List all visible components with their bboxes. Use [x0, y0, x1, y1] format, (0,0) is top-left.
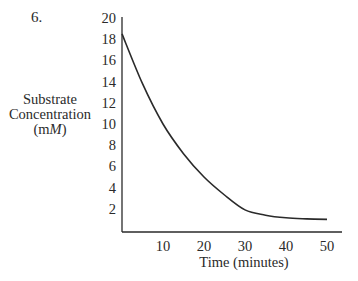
- x-tick-label: 40: [279, 238, 294, 254]
- x-tick-labels: 1020304050: [156, 238, 335, 254]
- y-tick-label: 14: [102, 74, 117, 90]
- y-tick-label: 18: [102, 31, 117, 47]
- x-tick-label: 10: [156, 238, 171, 254]
- y-tick-label: 8: [109, 137, 116, 153]
- y-tick-label: 10: [102, 116, 117, 132]
- line-chart: 2468101214161820 1020304050 Time (minute…: [0, 0, 358, 281]
- y-tick-label: 12: [102, 95, 117, 111]
- x-tick-label: 50: [320, 238, 335, 254]
- y-tick-labels: 2468101214161820: [102, 10, 117, 217]
- y-tick-label: 4: [109, 180, 117, 196]
- y-tick-label: 2: [109, 201, 116, 217]
- data-curve: [122, 34, 327, 220]
- x-tick-label: 30: [238, 238, 253, 254]
- y-tick-label: 16: [102, 52, 117, 68]
- y-tick-label: 20: [102, 10, 117, 26]
- x-tick-label: 20: [197, 238, 212, 254]
- axes: [122, 17, 342, 232]
- y-tick-label: 6: [109, 158, 116, 174]
- x-axis-label: Time (minutes): [199, 254, 288, 271]
